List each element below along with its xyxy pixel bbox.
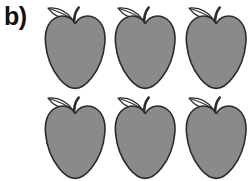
apple-body (186, 16, 246, 88)
apple-item-3 (181, 2, 251, 92)
apple-item-6 (181, 92, 251, 181)
apple-item-5 (110, 92, 180, 181)
apple-body (45, 106, 105, 178)
panel-label: b) (4, 4, 27, 29)
figure-panel: b) (0, 0, 251, 181)
apple-item-1 (40, 2, 110, 92)
apple-grid (40, 2, 251, 181)
apple-body (116, 106, 176, 178)
apple-body (45, 16, 105, 88)
apple-body (186, 106, 246, 178)
apple-item-2 (110, 2, 180, 92)
apple-body (116, 16, 176, 88)
apple-item-4 (40, 92, 110, 181)
